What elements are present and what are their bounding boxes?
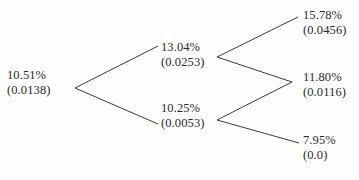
- node-down-value: (0.0053): [161, 116, 205, 131]
- binomial-lattice-diagram: 10.51% (0.0138) 13.04% (0.0253) 10.25% (…: [0, 0, 359, 180]
- lattice-node-up-up: 15.78% (0.0456): [303, 8, 347, 38]
- lattice-node-up: 13.04% (0.0253): [161, 40, 205, 70]
- edge-down-ud: [217, 82, 292, 120]
- edge-up-uu: [217, 17, 298, 57]
- lattice-node-down: 10.25% (0.0053): [161, 101, 205, 131]
- node-up-rate: 13.04%: [161, 40, 205, 55]
- edge-root-up: [75, 46, 158, 88]
- lattice-node-root: 10.51% (0.0138): [7, 68, 51, 98]
- node-up-down-rate: 11.80%: [303, 70, 346, 85]
- edge-root-down: [75, 88, 158, 124]
- edge-down-dd: [217, 120, 299, 143]
- lattice-node-up-down: 11.80% (0.0116): [303, 70, 346, 100]
- node-down-down-rate: 7.95%: [303, 133, 336, 148]
- node-up-down-value: (0.0116): [303, 85, 346, 100]
- node-up-up-value: (0.0456): [303, 23, 347, 38]
- node-down-down-value: (0.0): [303, 148, 336, 163]
- node-down-rate: 10.25%: [161, 101, 205, 116]
- node-up-value: (0.0253): [161, 55, 205, 70]
- node-root-rate: 10.51%: [7, 68, 51, 83]
- edge-up-ud: [217, 57, 292, 82]
- lattice-node-down-down: 7.95% (0.0): [303, 133, 336, 163]
- node-root-value: (0.0138): [7, 83, 51, 98]
- node-up-up-rate: 15.78%: [303, 8, 347, 23]
